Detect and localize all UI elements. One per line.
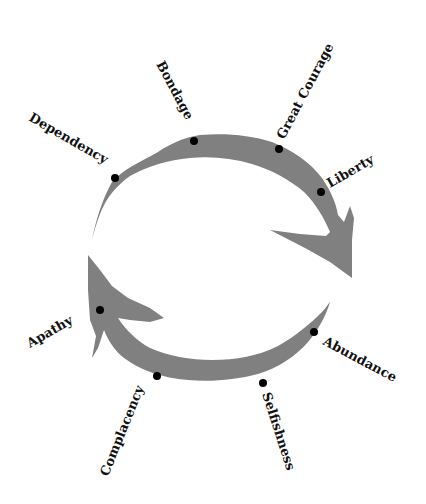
stage-dot-complacency — [153, 372, 161, 380]
stage-label-bondage: Bondage — [153, 58, 196, 122]
stage-label-dependency: Dependency — [27, 110, 112, 168]
stage-dot-great-courage — [275, 145, 283, 153]
stage-dot-apathy — [96, 306, 104, 314]
stage-label-liberty: Liberty — [324, 151, 377, 190]
stage-label-apathy: Apathy — [23, 312, 76, 351]
stage-label-great-courage: Great Courage — [273, 41, 336, 142]
stage-dot-dependency — [111, 174, 119, 182]
stage-dot-selfishness — [259, 379, 267, 387]
stage-dot-bondage — [190, 137, 198, 145]
stage-label-selfishness: Selfishness — [259, 390, 298, 472]
upper-cycle-arrow — [92, 134, 354, 278]
stage-dot-liberty — [317, 188, 325, 196]
lower-cycle-arrow — [88, 255, 330, 381]
cycle-diagram: Bondage Great Courage Liberty Abundance … — [0, 0, 426, 504]
stage-dot-abundance — [310, 328, 318, 336]
stage-label-complacency: Complacency — [97, 383, 147, 478]
stage-label-abundance: Abundance — [320, 333, 400, 385]
